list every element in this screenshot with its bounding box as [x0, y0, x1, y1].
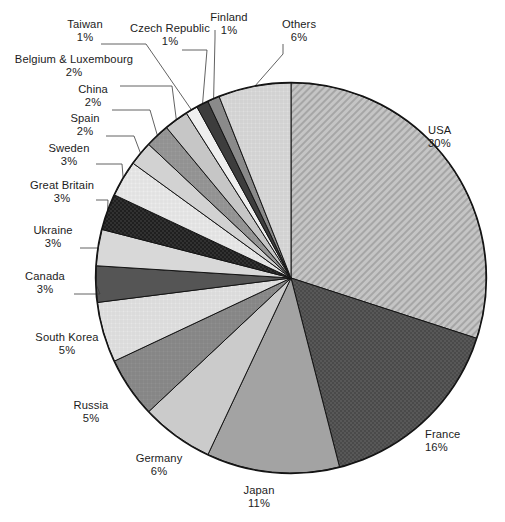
label-japan: Japan 11% [228, 484, 290, 511]
label-great-britain-pct: 3% [14, 192, 110, 205]
leader-line-czech-republic [182, 50, 207, 104]
label-canada: Canada 3% [12, 270, 78, 297]
label-russia-name: Russia [60, 399, 122, 412]
label-belgium-luxembourg-pct: 2% [8, 66, 140, 79]
label-usa-name: USA [428, 124, 498, 137]
label-taiwan-pct: 1% [46, 31, 124, 44]
label-ukraine-name: Ukraine [20, 224, 86, 237]
label-russia: Russia 5% [60, 399, 122, 426]
label-china-pct: 2% [64, 96, 122, 109]
label-canada-name: Canada [12, 270, 78, 283]
label-spain-name: Spain [56, 112, 114, 125]
label-taiwan: Taiwan 1% [46, 18, 124, 45]
label-germany-pct: 6% [120, 465, 198, 478]
label-canada-pct: 3% [12, 283, 78, 296]
label-germany-name: Germany [120, 452, 198, 465]
label-ukraine: Ukraine 3% [20, 224, 86, 251]
label-russia-pct: 5% [60, 412, 122, 425]
label-great-britain: Great Britain 3% [14, 179, 110, 206]
leader-line-others [255, 44, 284, 87]
label-great-britain-name: Great Britain [14, 179, 110, 192]
label-sweden-pct: 3% [36, 155, 102, 168]
label-finland: Finland 1% [198, 11, 260, 38]
label-china: China 2% [64, 83, 122, 110]
label-japan-pct: 11% [228, 497, 290, 510]
leader-line-china [112, 110, 158, 136]
label-south-korea-name: South Korea [19, 331, 115, 344]
label-finland-pct: 1% [198, 24, 260, 37]
label-japan-name: Japan [228, 484, 290, 497]
label-usa-pct: 30% [428, 137, 498, 150]
label-others-pct: 6% [268, 31, 330, 44]
leader-line-belgium-luxembourg [120, 86, 176, 120]
figure-bottom-edge [0, 519, 505, 520]
figure-caption [8, 511, 498, 522]
label-sweden-name: Sweden [36, 142, 102, 155]
pie-chart-figure: Taiwan 1% Czech Republic 1% Finland 1% O… [0, 0, 505, 522]
label-others-name: Others [268, 18, 330, 31]
label-spain: Spain 2% [56, 112, 114, 139]
label-sweden: Sweden 3% [36, 142, 102, 169]
label-taiwan-name: Taiwan [46, 18, 124, 31]
label-south-korea-pct: 5% [19, 344, 115, 357]
label-spain-pct: 2% [56, 125, 114, 138]
label-finland-name: Finland [198, 11, 260, 24]
label-belgium-luxembourg-name: Belgium & Luxembourg [8, 53, 140, 66]
label-germany: Germany 6% [120, 452, 198, 479]
label-france: France 16% [425, 428, 499, 455]
label-france-name: France [425, 428, 499, 441]
label-ukraine-pct: 3% [20, 237, 86, 250]
label-france-pct: 16% [425, 441, 499, 454]
label-belgium-luxembourg: Belgium & Luxembourg 2% [8, 53, 140, 80]
label-others: Others 6% [268, 18, 330, 45]
label-usa: USA 30% [428, 124, 498, 151]
label-south-korea: South Korea 5% [19, 331, 115, 358]
label-china-name: China [64, 83, 122, 96]
